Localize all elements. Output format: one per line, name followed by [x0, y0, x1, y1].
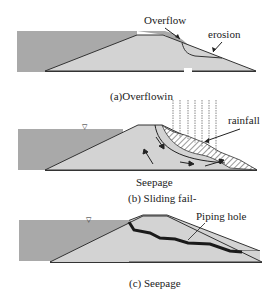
panel-b-sliding-failure: ▽ rainfall Seepage (b) Sliding fail- [18, 100, 260, 205]
panel-a-overflow: Overflow erosion (a)Overflowin [17, 14, 256, 103]
erosion-label: erosion [208, 28, 241, 40]
failure-modes-diagram: Overflow erosion (a)Overflowin ▽ rainfal… [0, 0, 278, 292]
caption-c: (c) Seepage [129, 277, 181, 290]
piping-hole-label: Piping hole [196, 210, 247, 222]
rainfall-label: rainfall [228, 114, 260, 126]
caption-a: (a)Overflowin [110, 90, 173, 103]
seepage-label: Seepage [136, 176, 173, 188]
overflow-label: Overflow [144, 14, 186, 26]
panel-c-seepage: ▽ Piping hole (c) Seepage [19, 210, 262, 290]
caption-b: (b) Sliding fail- [128, 192, 197, 205]
